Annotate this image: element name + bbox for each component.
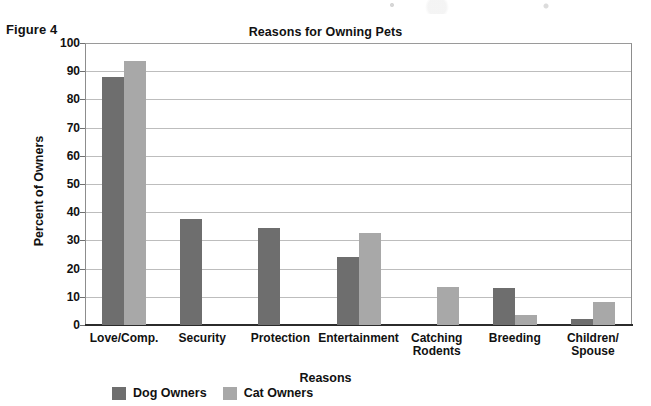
y-axis-tick-label: 60: [46, 150, 80, 162]
gridline: [86, 71, 631, 72]
y-axis-tick-label: 0: [46, 319, 80, 331]
legend-swatch-icon: [223, 387, 237, 400]
legend-label: Cat Owners: [244, 386, 313, 400]
gridline: [86, 212, 631, 213]
y-axis-tick-label: 70: [46, 122, 80, 134]
legend-item: Cat Owners: [223, 386, 313, 400]
bar-cat-owners: [593, 302, 615, 325]
bar-dog-owners: [337, 257, 359, 325]
chart-legend: Dog OwnersCat Owners: [112, 386, 313, 400]
bar-cat-owners: [359, 233, 381, 325]
y-axis-title: Percent of Owners: [32, 131, 46, 251]
bar-dog-owners: [180, 219, 202, 325]
gridline: [86, 184, 631, 185]
gridline: [86, 99, 631, 100]
bar-dog-owners: [102, 77, 124, 325]
y-axis-tick-label: 90: [46, 65, 80, 77]
bar-dog-owners: [493, 288, 515, 325]
bar-cat-owners: [437, 287, 459, 325]
y-axis-tick-label: 50: [46, 178, 80, 190]
y-axis-tick-label: 10: [46, 291, 80, 303]
chart-title: Reasons for Owning Pets: [0, 25, 651, 39]
y-axis-tick-label: 100: [46, 37, 80, 49]
bar-cat-owners: [124, 61, 146, 325]
y-axis-tick-label: 40: [46, 206, 80, 218]
bar-dog-owners: [258, 228, 280, 325]
legend-label: Dog Owners: [133, 386, 207, 400]
y-axis-tick-label: 80: [46, 93, 80, 105]
x-axis-tick-label: Children/ Spouse: [538, 332, 648, 358]
gridline: [86, 156, 631, 157]
y-axis-tick-label: 30: [46, 234, 80, 246]
bar-dog-owners: [571, 319, 593, 325]
gridline: [86, 43, 631, 44]
x-axis-title: Reasons: [0, 371, 651, 385]
y-axis-tick-label: 20: [46, 263, 80, 275]
legend-item: Dog Owners: [112, 386, 207, 400]
bar-cat-owners: [515, 315, 537, 325]
gridline: [86, 128, 631, 129]
scan-artifact: [0, 0, 651, 14]
legend-swatch-icon: [112, 387, 126, 400]
